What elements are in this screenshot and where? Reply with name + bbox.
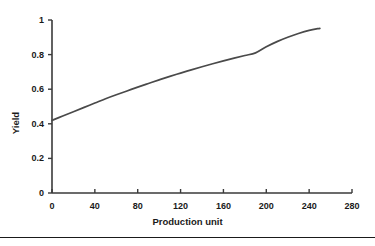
y-tick-label: 0 [0,188,44,198]
x-tick-label: 0 [49,201,54,211]
y-tick-label: 1 [0,15,44,25]
y-axis-title: Yield [10,112,21,134]
y-tick-label: 0.8 [0,50,44,60]
x-tick-label: 200 [259,201,274,211]
x-axis-title: Production unit [0,216,375,227]
y-tick-label: 0.2 [0,153,44,163]
series-line-yield-response [52,28,320,120]
y-tick-label: 0.4 [0,119,44,129]
footer-divider [0,237,375,238]
x-tick-label: 240 [302,201,317,211]
x-tick-label: 280 [344,201,359,211]
x-tick-label: 40 [90,201,100,211]
x-tick-label: 80 [133,201,143,211]
x-tick-label: 120 [173,201,188,211]
y-tick-label: 0.6 [0,84,44,94]
chart-figure: 00.20.40.60.81 04080120160200240280 Yiel… [0,0,375,246]
x-tick-label: 160 [216,201,231,211]
